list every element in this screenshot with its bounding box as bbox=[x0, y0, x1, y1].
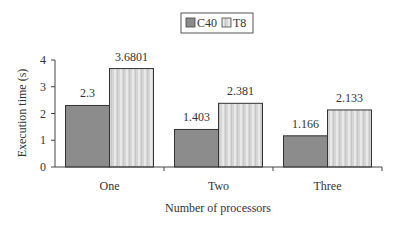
y-tick-label: 3 bbox=[40, 80, 46, 94]
x-tick-label: One bbox=[100, 179, 120, 193]
y-tick-label: 1 bbox=[40, 133, 46, 147]
x-tick-label: Two bbox=[208, 179, 229, 193]
legend: C40 T8 bbox=[181, 13, 253, 33]
bar-t8-two bbox=[219, 103, 263, 167]
x-tick-label: Three bbox=[314, 179, 342, 193]
bar-t8-three bbox=[328, 110, 372, 167]
y-axis-ticks: 01234 bbox=[40, 53, 55, 174]
x-axis-title: Number of processors bbox=[165, 201, 271, 215]
legend-label-c40: C40 bbox=[197, 16, 217, 30]
data-label: 2.133 bbox=[336, 91, 363, 105]
data-label: 1.166 bbox=[292, 117, 319, 131]
legend-label-t8: T8 bbox=[233, 16, 246, 30]
data-label: 1.403 bbox=[183, 110, 210, 124]
y-tick-label: 0 bbox=[40, 160, 46, 174]
bar-c40-three bbox=[284, 136, 328, 167]
x-axis-ticks: OneTwoThree bbox=[100, 167, 383, 193]
bar-c40-two bbox=[175, 129, 219, 167]
data-label: 2.3 bbox=[80, 86, 95, 100]
y-axis-title: Execution time (s) bbox=[15, 69, 29, 158]
bar-chart: C40 T8 2.33.68011.4032.3811.1662.133 012… bbox=[0, 0, 404, 226]
legend-swatch-c40 bbox=[186, 18, 195, 27]
plot-area: 2.33.68011.4032.3811.1662.133 bbox=[66, 50, 372, 167]
legend-swatch-t8 bbox=[222, 18, 231, 27]
bar-t8-one bbox=[110, 69, 154, 167]
y-tick-label: 2 bbox=[40, 107, 46, 121]
bar-c40-one bbox=[66, 105, 110, 167]
y-tick-label: 4 bbox=[40, 53, 46, 67]
data-label: 2.381 bbox=[227, 84, 254, 98]
data-label: 3.6801 bbox=[115, 50, 148, 64]
